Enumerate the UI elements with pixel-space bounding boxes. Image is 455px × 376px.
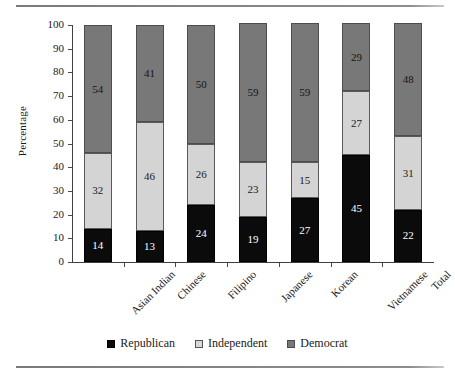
y-axis-tick-label: 10 [38,232,64,243]
bar-segment-democrat[interactable]: 48 [394,23,422,137]
bar-segment-independent[interactable]: 23 [239,162,267,217]
bar-segment-republican[interactable]: 24 [187,205,215,262]
y-axis-tick-label: 50 [38,138,64,149]
plot-bars-region: 1432541346412426501923592715594527292231… [72,25,434,262]
bar-value-label: 50 [196,79,207,90]
x-axis-tick-label: Vietnamese [385,268,430,313]
bar-value-label: 59 [299,87,310,98]
x-axis-tick-label: Chinese [174,268,208,302]
bar-segment-republican[interactable]: 22 [394,210,422,262]
bar-value-label: 59 [248,87,259,98]
y-axis-tick-label: 70 [38,90,64,101]
bar-value-label: 31 [403,168,414,179]
bar-value-label: 29 [351,52,362,63]
bar-segment-republican[interactable]: 19 [239,217,267,262]
bar-segment-democrat[interactable]: 59 [291,23,319,163]
bar-segment-independent[interactable]: 26 [187,144,215,206]
independent-swatch [195,340,203,348]
x-axis-tick-mark [124,263,125,267]
x-axis-tick-label: Filipino [225,268,258,301]
bar-column[interactable]: 134641 [136,25,164,262]
y-axis-tick-label: 0 [38,256,64,267]
bar-segment-republican[interactable]: 27 [291,198,319,262]
bar-value-label: 23 [248,184,259,195]
bar-segment-democrat[interactable]: 54 [84,25,112,153]
bar-segment-democrat[interactable]: 41 [136,25,164,122]
bar-segment-independent[interactable]: 32 [84,153,112,229]
democrat-swatch [287,340,295,348]
bar-column[interactable]: 223148 [394,25,422,262]
bar-value-label: 32 [92,185,103,196]
bar-column[interactable]: 452729 [342,25,370,262]
bar-value-label: 22 [403,230,414,241]
legend-item-label: Democrat [300,336,347,351]
y-axis-tick-label: 80 [38,66,64,77]
y-axis-tick-label: 40 [38,161,64,172]
bar-segment-republican[interactable]: 14 [84,229,112,262]
bar-segment-democrat[interactable]: 50 [187,25,215,144]
x-axis-tick-mark [279,263,280,267]
x-axis-tick-mark [227,263,228,267]
bar-value-label: 26 [196,169,207,180]
y-axis-tick-label: 20 [38,209,64,220]
bar-segment-republican[interactable]: 45 [342,155,370,262]
legend-item-democrat[interactable]: Democrat [287,336,347,351]
stacked-bar-chart: Percentage 1009080706050403020100 143254… [0,0,455,376]
x-axis-tick-label: Asian Indian [128,268,176,316]
y-axis-tick-label: 30 [38,185,64,196]
bar-value-label: 27 [351,118,362,129]
bar-value-label: 13 [144,241,155,252]
bar-value-label: 14 [92,240,103,251]
bar-segment-independent[interactable]: 27 [342,91,370,155]
bar-value-label: 45 [351,203,362,214]
legend-item-republican[interactable]: Republican [107,336,175,351]
y-axis-tick-label: 60 [38,114,64,125]
x-axis-tick-mark [382,263,383,267]
bar-value-label: 24 [196,228,207,239]
bar-value-label: 54 [92,84,103,95]
bar-value-label: 41 [144,68,155,79]
republican-swatch [107,340,115,348]
bar-value-label: 46 [144,171,155,182]
bar-value-label: 48 [403,74,414,85]
legend-item-label: Republican [120,336,175,351]
y-axis-tick-label: 90 [38,43,64,54]
bar-value-label: 19 [248,234,259,245]
bar-segment-democrat[interactable]: 59 [239,23,267,163]
bar-segment-independent[interactable]: 31 [394,136,422,209]
bar-column[interactable]: 143254 [84,25,112,262]
bar-value-label: 27 [299,225,310,236]
bar-column[interactable]: 192359 [239,25,267,262]
x-axis-tick-label: Total [429,268,453,292]
x-axis-tick-mark [331,263,332,267]
bar-segment-independent[interactable]: 15 [291,162,319,198]
bar-value-label: 15 [299,175,310,186]
y-axis-tick-label: 100 [38,19,64,30]
x-axis-tick-label: Japanese [278,268,314,304]
bar-column[interactable]: 242650 [187,25,215,262]
legend-item-independent[interactable]: Independent [195,336,267,351]
bar-segment-republican[interactable]: 13 [136,231,164,262]
y-axis-title: Percentage [16,91,28,171]
legend-item-label: Independent [208,336,267,351]
bar-segment-democrat[interactable]: 29 [342,23,370,92]
bar-segment-independent[interactable]: 46 [136,122,164,231]
chart-legend: RepublicanIndependentDemocrat [0,336,455,351]
x-axis-tick-mark [175,263,176,267]
bar-column[interactable]: 271559 [291,25,319,262]
x-axis-line [72,262,434,263]
x-axis-tick-label: Korean [328,268,359,299]
